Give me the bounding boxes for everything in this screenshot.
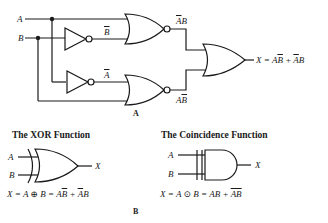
coincidence-gate: [205, 150, 237, 180]
output-equation: X = AB + AB: [256, 56, 304, 65]
xor-gate: [35, 149, 78, 182]
not-a-label: A: [104, 71, 110, 80]
caption-a: A: [133, 110, 139, 118]
nor-gate-lower: [125, 75, 164, 105]
nor-gate-upper: [125, 14, 164, 44]
caption-b: B: [133, 208, 138, 216]
xor-extra-arc: [28, 149, 33, 183]
nor-upper-output-label: AB: [176, 17, 187, 26]
input-b-label: B: [18, 34, 24, 43]
xor-equation: X = A ⊕ B = AB + AB: [7, 190, 89, 199]
coincidence-output: X: [255, 161, 261, 170]
junction-b: [36, 36, 40, 40]
or-gate-final: [203, 44, 245, 76]
not-b-label: B: [104, 28, 110, 37]
inverter-b: [65, 28, 86, 50]
coincidence-input-b: B: [168, 170, 174, 179]
xor-input-b: B: [9, 171, 15, 180]
xor-output: X: [95, 162, 101, 171]
input-a-label: A: [17, 15, 23, 24]
junction-a: [50, 17, 54, 21]
nor-lower-output-label: AB: [176, 96, 187, 105]
coincidence-equation: X = A ⊙ B = AB + AB: [160, 190, 242, 199]
xor-input-a: A: [8, 153, 14, 162]
inverter-a: [67, 71, 88, 93]
coincidence-input-a: A: [168, 151, 174, 160]
xor-title: The XOR Function: [12, 130, 90, 140]
coincidence-title: The Coincidence Function: [161, 130, 268, 140]
